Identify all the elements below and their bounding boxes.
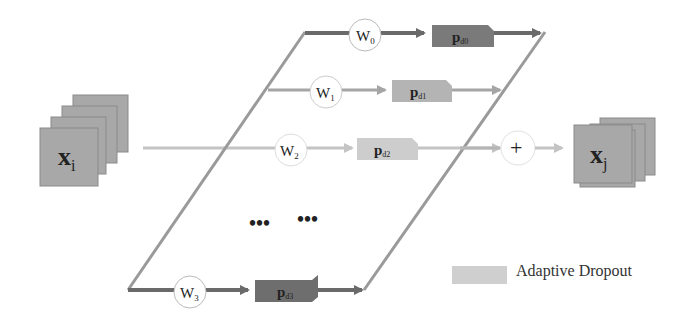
branch-2: W2 pd2 xyxy=(268,134,500,166)
branch-3: W3 pd3 xyxy=(128,275,362,308)
output-feature-stack: xj xyxy=(574,118,655,187)
input-feature-stack: xi xyxy=(40,95,128,186)
sum-symbol: + xyxy=(510,135,522,160)
legend-label: Adaptive Dropout xyxy=(516,262,632,280)
left-edge xyxy=(128,32,305,290)
legend-swatch xyxy=(452,266,507,284)
branch-0: W0 pd0 xyxy=(305,19,540,51)
ellipsis-left: ••• xyxy=(249,212,270,234)
ellipsis-right: ••• xyxy=(297,208,318,230)
branch-1: W1 pd1 xyxy=(268,76,500,108)
